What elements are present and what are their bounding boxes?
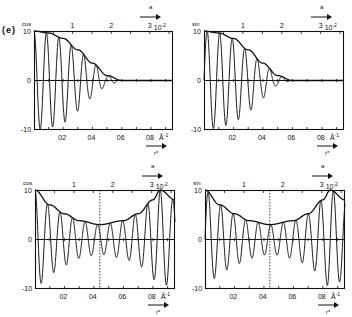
top-axis-arrow-label: a (151, 163, 154, 169)
bottom-tick-label: 04 (258, 134, 266, 141)
oscillation-curve (35, 190, 175, 285)
top-axis-unit: 10-2 (156, 181, 168, 190)
top-tick-label: 3 (319, 22, 323, 29)
bottom-axis-arrow-label: r* (156, 309, 160, 315)
bottom-axis-arrow-icon (316, 142, 340, 150)
plot-area (205, 190, 345, 289)
top-axis-arrow-label: a (149, 4, 152, 10)
envelope-curve (35, 190, 175, 225)
panel-top-right: sin100-1012310-2a02040608Å-1r* (204, 31, 344, 130)
panel-top-left: cos100-1012310-2a02040608Å-1r* (34, 31, 173, 130)
top-tick-label: 1 (241, 22, 245, 29)
y-tick-label: -10 (21, 126, 31, 133)
y-tick-label: 10 (194, 187, 202, 194)
bottom-tick-label: 06 (288, 293, 296, 300)
bottom-tick-label: 06 (287, 134, 295, 141)
function-label: cos (23, 180, 32, 186)
top-tick-label: 2 (280, 22, 284, 29)
top-axis-arrow-label: a (321, 163, 324, 169)
bottom-axis-arrow-label: r* (154, 150, 158, 156)
plot-area (35, 190, 175, 289)
top-tick-label: 1 (71, 22, 75, 29)
bottom-axis-arrow-label: r* (325, 150, 329, 156)
function-label: sin (192, 21, 200, 27)
top-tick-label: 3 (320, 181, 324, 188)
bottom-tick-label: 08 (317, 134, 325, 141)
y-tick-label: 0 (198, 236, 202, 243)
bottom-axis-arrow-icon (147, 301, 171, 309)
top-tick-label: 3 (150, 181, 154, 188)
top-axis-unit: 10-2 (326, 181, 338, 190)
top-tick-label: 2 (281, 181, 285, 188)
top-axis-unit: 10-2 (325, 22, 337, 31)
bottom-axis-arrow-icon (317, 301, 341, 309)
bottom-tick-label: 08 (318, 293, 326, 300)
top-axis-unit: 10-2 (154, 22, 166, 31)
top-axis-arrow-label: a (320, 4, 323, 10)
bottom-tick-label: 02 (59, 293, 67, 300)
bottom-tick-label: 04 (89, 293, 97, 300)
envelope-curve (34, 31, 173, 81)
bottom-tick-label: 08 (148, 293, 156, 300)
envelope-curve (204, 31, 344, 81)
y-tick-label: 10 (24, 187, 32, 194)
envelope-curve (205, 190, 345, 225)
y-tick-label: 10 (193, 28, 201, 35)
y-tick-label: -10 (192, 285, 202, 292)
y-tick-label: 0 (197, 77, 201, 84)
y-tick-label: 10 (23, 28, 31, 35)
bottom-tick-label: 02 (58, 134, 66, 141)
top-tick-label: 2 (111, 181, 115, 188)
y-tick-label: -10 (22, 285, 32, 292)
y-tick-label: -10 (191, 126, 201, 133)
oscillation-curve (205, 191, 345, 285)
bottom-axis-unit: Å-1 (330, 132, 339, 141)
bottom-tick-label: 04 (88, 134, 96, 141)
panel-bottom-right: sin100-1012310-2a02040608Å-1r* (205, 190, 345, 289)
bottom-tick-label: 02 (228, 134, 236, 141)
y-tick-label: 0 (28, 236, 32, 243)
top-tick-label: 1 (72, 181, 76, 188)
bottom-axis-arrow-icon (145, 142, 169, 150)
bottom-axis-unit: Å-1 (159, 132, 168, 141)
bottom-tick-label: 06 (118, 293, 126, 300)
plot-area (204, 31, 344, 130)
top-tick-label: 2 (109, 22, 113, 29)
panel-label: (e) (2, 26, 16, 35)
bottom-tick-label: 04 (259, 293, 267, 300)
y-tick-label: 0 (27, 77, 31, 84)
top-tick-label: 3 (148, 22, 152, 29)
bottom-axis-unit: Å-1 (331, 291, 340, 300)
bottom-tick-label: 02 (229, 293, 237, 300)
function-label: sin (193, 180, 201, 186)
plot-area (34, 31, 173, 130)
bottom-axis-unit: Å-1 (161, 291, 170, 300)
function-label: cos (22, 21, 31, 27)
bottom-tick-label: 06 (117, 134, 125, 141)
bottom-axis-arrow-label: r* (326, 309, 330, 315)
panel-bottom-left: cos100-1012310-2a02040608Å-1r* (35, 190, 175, 289)
bottom-tick-label: 08 (146, 134, 154, 141)
top-tick-label: 1 (242, 181, 246, 188)
